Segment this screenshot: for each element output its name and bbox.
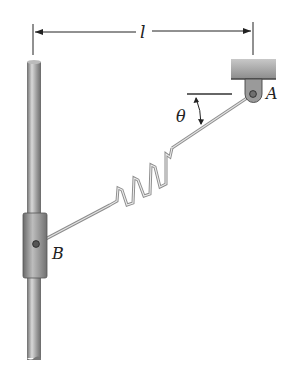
- point-a-label: A: [264, 84, 278, 103]
- mechanism-diagram: l B A θ: [0, 0, 296, 378]
- vertical-rod: [27, 60, 41, 360]
- length-label: l: [140, 22, 145, 42]
- point-b-label: B: [51, 244, 64, 263]
- angle-theta-label: θ: [176, 107, 186, 126]
- angle-indicator: θ: [176, 94, 232, 126]
- pin-joint-b: [33, 241, 40, 248]
- dimension-line: l: [33, 22, 253, 55]
- pin-joint-a: [250, 91, 257, 98]
- spring: [110, 148, 172, 205]
- link-and-spring: [38, 94, 253, 243]
